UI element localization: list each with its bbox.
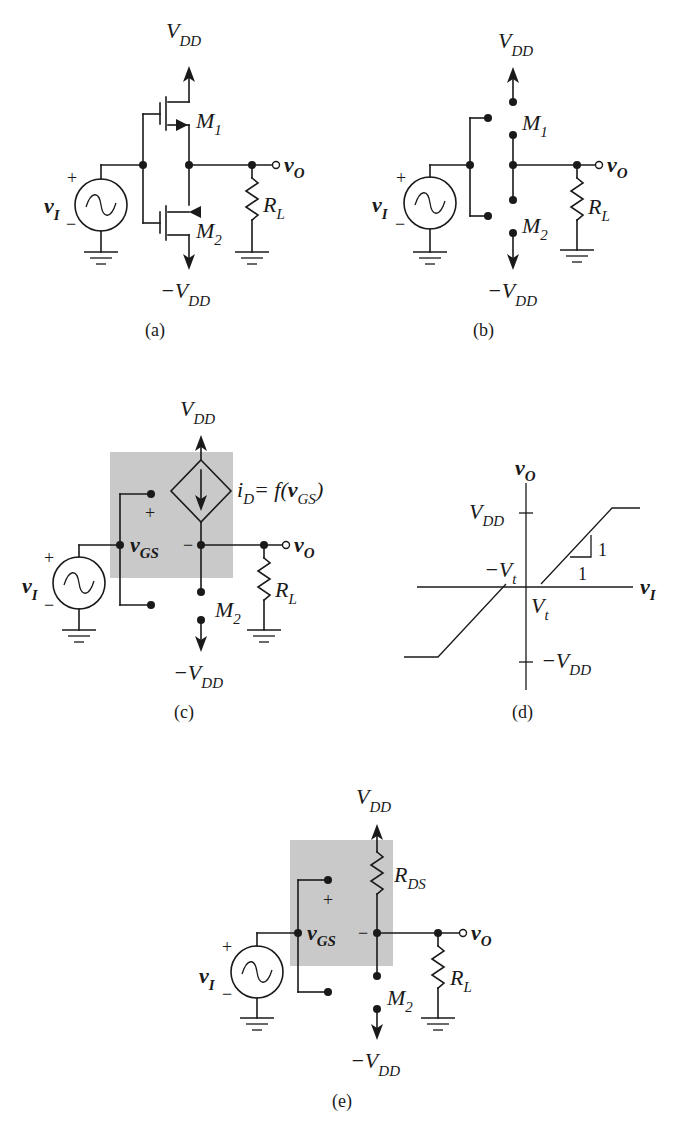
plus-sign: + [67,168,77,188]
vi-label: vI [372,192,389,222]
m2-label: M2 [521,213,548,243]
id-equation: iD= f(vGS) [237,477,323,507]
load-resistor [246,178,258,220]
panel-d-transfer-graph: vO vI VDD −VDD −Vt Vt 1 1 (d) [404,455,657,723]
vdd-tick-label: VDD [469,499,504,529]
minus-sign: − [222,984,232,1004]
plus-sign: + [44,548,54,568]
rl-label: RL [274,577,297,607]
caption-a: (a) [145,320,165,341]
vi-label: vI [22,573,39,603]
neg-vdd-label: −VDD [487,278,537,309]
vgs-plus: + [323,890,333,910]
neg-vdd-label: −VDD [173,660,223,691]
m2-label: M2 [386,985,413,1015]
ground-icon [235,252,269,264]
panel-a: VDD M1 M2 −VDD + − vI [44,18,305,341]
neg-vt-label: −Vt [484,557,517,587]
caption-b: (b) [473,320,494,341]
vo-label: vO [607,152,628,181]
panel-c: VDD iD= f(vGS) M2 −VDD + vGS − + − vI [22,396,323,723]
output-terminal [460,930,467,937]
minus-sign: − [44,595,54,615]
m2-label: M2 [214,597,241,627]
vdd-label: VDD [166,18,201,49]
output-terminal [596,162,603,169]
load-resistor [258,558,270,600]
slope-triangle [570,535,591,557]
rl-label: RL [449,965,472,995]
minus-sign: − [395,214,405,234]
ground-icon [413,252,447,264]
vi-label: vI [199,963,216,993]
output-terminal [273,162,280,169]
minus-sign: − [66,214,76,234]
caption-e: (e) [332,1091,352,1112]
lower-transfer-curve [404,584,506,657]
rl-label: RL [262,192,285,222]
ac-source-icon [404,177,456,229]
neg-vdd-tick-label: −VDD [541,648,591,678]
caption-c: (c) [174,702,194,723]
ground-icon [84,252,118,264]
ac-source-icon [231,946,283,998]
panel-e: VDD RDS M2 −VDD + vGS − + − vI [199,784,492,1112]
slope-run-label: 1 [578,564,587,584]
vdd-label: VDD [356,784,391,815]
caption-d: (d) [512,702,533,723]
panel-b: VDD M1 M2 −VDD + − vI vO [372,28,628,341]
ac-source-icon [75,179,127,231]
ground-icon [560,250,594,262]
vgs-minus: − [183,535,193,555]
rl-label: RL [587,194,610,224]
m2-label: M2 [195,218,222,248]
ground-icon [62,630,96,642]
vo-label: vO [284,152,305,181]
rds-label: RDS [393,862,426,892]
m1-label: M1 [521,110,548,140]
vgs-plus: + [145,503,155,523]
ground-icon [421,1018,455,1030]
vgs-minus: − [358,923,368,943]
load-resistor [432,946,444,988]
ground-icon [240,1018,274,1030]
ground-icon [247,630,281,642]
y-axis-label: vO [515,455,536,484]
neg-vdd-label: −VDD [160,278,210,309]
neg-vdd-label: −VDD [350,1048,400,1079]
vo-label: vO [471,920,492,949]
ac-source-icon [53,557,105,609]
m1-label: M1 [195,108,222,138]
x-axis-label: vI [640,574,657,603]
m2-source-arrow-icon [189,206,201,218]
slope-rise-label: 1 [598,540,607,560]
m1-source-arrow-icon [176,119,188,131]
output-terminal [283,542,290,549]
vo-label: vO [294,532,315,561]
plus-sign: + [222,937,232,957]
vt-label: Vt [531,593,549,623]
plus-sign: + [396,168,406,188]
vdd-label: VDD [180,396,215,427]
vi-label: vI [44,193,61,223]
load-resistor [571,178,583,220]
transistor-model-box [110,452,233,578]
vdd-label: VDD [498,28,533,59]
